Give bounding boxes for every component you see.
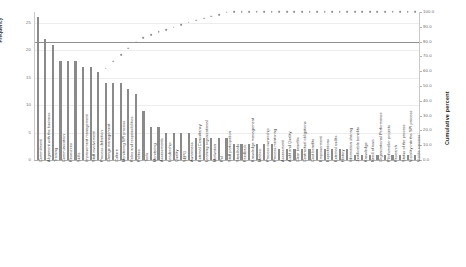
cumulative-point	[82, 90, 84, 92]
x-axis-category-label: Expectations	[326, 139, 330, 162]
cumulative-point	[173, 26, 175, 28]
x-axis-category-label: Resources	[69, 143, 73, 162]
cumulative-point	[233, 11, 235, 13]
y-axis-right-tick-mark	[420, 101, 422, 102]
x-axis-category-label: Motivation	[213, 144, 217, 162]
x-axis-category-label: Culture	[115, 149, 119, 162]
x-axis-category-label: Assessment	[281, 140, 285, 162]
x-axis-category-label: History	[341, 150, 345, 162]
cumulative-point	[218, 14, 220, 16]
cumulative-point	[150, 34, 152, 36]
y-axis-right-tick-mark	[420, 86, 422, 87]
x-axis-category-label: Alignment with the business	[47, 112, 51, 162]
x-axis-category-label: Monitoring SPI process	[122, 121, 126, 162]
y-axis-left-tick-label: 0	[29, 158, 32, 162]
x-axis-category-label: External audits	[334, 136, 338, 163]
cumulative-point	[362, 11, 364, 13]
x-axis-category-label: Learning organizational	[205, 120, 209, 162]
cumulative-point	[369, 11, 371, 13]
x-axis-category-label: Cost benefits	[311, 139, 315, 162]
x-axis-category-label: Process mentoring	[273, 129, 277, 162]
y-axis-right-tick-label: 80.0	[423, 39, 432, 43]
x-axis-category-label: Clear benefits	[296, 137, 300, 162]
y-axis-left-ticks: 0510152025	[10, 12, 31, 160]
x-axis-category-label: Process ownership	[266, 128, 270, 162]
y-axis-right-tick-mark	[420, 130, 422, 131]
cumulative-point	[392, 11, 394, 13]
y-axis-left-tick-label: 5	[29, 130, 32, 134]
x-axis-category-label: Knowledge management	[251, 118, 255, 162]
x-axis-category-label: Politics	[137, 149, 141, 162]
cumulative-point	[60, 117, 62, 119]
x-axis-category-label: Need of own	[371, 140, 375, 162]
x-axis-category-label: Research	[394, 145, 398, 162]
x-axis-category-label: Change management	[107, 124, 111, 162]
y-axis-left-line	[34, 12, 35, 160]
cumulative-point	[301, 11, 303, 13]
cumulative-point	[188, 22, 190, 24]
y-axis-right-tick-label: 10.0	[423, 143, 432, 147]
y-axis-left-tick-label: 20	[26, 48, 31, 52]
y-axis-right-title: Cumulative percent	[444, 35, 450, 145]
y-axis-right-tick-mark	[420, 27, 422, 28]
cumulative-point	[256, 11, 258, 13]
cumulative-point	[331, 11, 333, 13]
cumulative-point	[143, 37, 145, 39]
x-axis-category-label: Empowerment	[319, 136, 323, 162]
y-axis-right-tick-label: 50.0	[423, 84, 432, 88]
y-axis-right-tick-label: 90.0	[423, 25, 432, 29]
x-axis-category-label: Awareness	[190, 142, 194, 162]
cumulative-point	[278, 11, 280, 13]
x-axis-category-label: Roles and responsibilities	[130, 117, 134, 162]
cumulative-point	[67, 108, 69, 110]
cumulative-point	[248, 11, 250, 13]
cumulative-point	[377, 11, 379, 13]
y-axis-right-tick-mark	[420, 42, 422, 43]
x-axis-category-label: Knowledge	[364, 142, 368, 162]
cumulative-point	[112, 61, 114, 63]
x-axis-category-label: Standards	[236, 144, 240, 162]
cumulative-point	[324, 11, 326, 13]
x-axis-category-label: Leadership	[168, 142, 172, 162]
x-axis-category-label: Staff involvement	[92, 131, 96, 162]
x-axis-category-label: Tools	[145, 153, 149, 162]
y-axis-left-tick-label: 15	[26, 76, 31, 80]
cumulative-point	[90, 82, 92, 84]
y-axis-left-tick-label: 25	[26, 21, 31, 25]
x-axis-category-label: SEPG	[183, 151, 187, 162]
x-axis-category-label: Commitment	[39, 139, 43, 162]
x-axis-category-label: Contractual obligations	[303, 121, 307, 162]
cumulative-point	[195, 19, 197, 21]
x-axis-category-label: Process definition	[100, 130, 104, 162]
cumulative-point	[384, 11, 386, 13]
y-axis-right-tick-mark	[420, 71, 422, 72]
cumulative-point	[52, 125, 54, 127]
x-axis-category-label: Metrics	[258, 149, 262, 162]
cumulative-point	[346, 11, 348, 13]
x-axis-category-label: External Consultancy	[198, 124, 202, 162]
cumulative-point	[128, 47, 130, 49]
cumulative-point	[75, 99, 77, 101]
y-axis-right-tick-label: 0.0	[423, 158, 429, 162]
cumulative-point	[407, 11, 409, 13]
y-axis-left-title: Frequency	[0, 0, 3, 60]
cumulative-point	[226, 12, 228, 14]
y-axis-right-tick-label: 30.0	[423, 113, 432, 117]
y-axis-right-tick-label: 60.0	[423, 69, 432, 73]
x-axis-category-label: Assessments	[160, 138, 164, 162]
cumulative-point	[263, 11, 265, 13]
y-axis-right-tick-mark	[420, 12, 422, 13]
x-axis-category-label: Monitoring	[153, 143, 157, 162]
y-axis-left-tick-label: 10	[26, 103, 31, 107]
x-axis-category-label: Visible success	[417, 135, 421, 162]
y-axis-right-tick-label: 20.0	[423, 128, 432, 132]
x-axis-category-label: PoI	[220, 156, 224, 162]
x-axis-category-label: Organizational Performance	[379, 112, 383, 162]
x-axis-category-label: Improvement management	[85, 114, 89, 162]
cumulative-point	[316, 11, 318, 13]
cumulative-point	[97, 74, 99, 76]
cumulative-point	[241, 11, 243, 13]
x-axis-category-label: Audit and Quality	[288, 132, 292, 162]
x-axis-category-label: Communication	[62, 134, 66, 162]
x-axis-category-label: Information sharing	[349, 128, 353, 162]
